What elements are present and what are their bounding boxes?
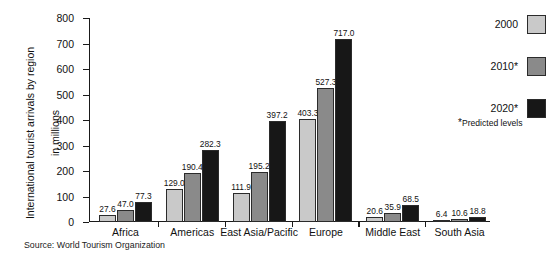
x-tick-separator (358, 222, 359, 227)
bar-group-east-asia-pacific: 111.9195.2397.2East Asia/Pacific (233, 18, 286, 222)
bar-south-asia-2020: 18.8 (469, 217, 486, 222)
legend-item-2020[interactable]: 2020* (446, 98, 546, 118)
bar-east-asia-pacific-2000: 111.9 (233, 193, 250, 222)
bar-group-americas: 129.0190.4282.3Americas (166, 18, 219, 222)
bar-group-africa: 27.647.077.3Africa (99, 18, 152, 222)
y-axis-line (89, 18, 90, 222)
y-tick-label-800: 800 (56, 12, 74, 24)
legend-label-2020: 2020* (491, 102, 518, 114)
bar-europe-2010: 527.3 (317, 88, 334, 222)
x-tick-separator (158, 222, 159, 227)
bar-value-label: 527.3 (315, 77, 336, 87)
legend-footnote: *Predicted levels (458, 118, 523, 128)
legend-label-2010: 2010* (491, 60, 518, 72)
legend-item-2010[interactable]: 2010* (446, 56, 546, 76)
y-tick-label-0: 0 (68, 216, 74, 228)
bar-value-label: 195.2 (249, 161, 270, 171)
bar-value-label: 47.0 (117, 199, 133, 209)
bar-value-label: 397.2 (267, 110, 288, 120)
bar-group-europe: 403.3527.3717.0Europe (299, 18, 352, 222)
legend-label-2000: 2000 (495, 18, 518, 30)
x-axis-label-middle-east: Middle East (365, 226, 420, 238)
y-axis-title-line1: International tourist arrivals by region (24, 47, 36, 219)
source-note: Source: World Tourism Organization (24, 240, 165, 250)
legend-swatch-2010 (527, 57, 546, 76)
bar-value-label: 10.6 (451, 208, 467, 218)
bar-value-label: 68.5 (403, 194, 419, 204)
y-tick-300: 300 (83, 146, 89, 147)
bar-europe-2020: 717.0 (335, 39, 352, 222)
bar-value-label: 35.9 (385, 202, 401, 212)
bar-value-label: 27.6 (99, 204, 115, 214)
y-tick-label-700: 700 (56, 38, 74, 50)
bar-middle-east-2010: 35.9 (384, 213, 401, 222)
bar-value-label: 129.0 (164, 178, 185, 188)
bar-africa-2010: 47.0 (117, 210, 134, 222)
y-tick-0: 0 (83, 222, 89, 223)
x-axis-label-africa: Africa (112, 226, 139, 238)
bar-americas-2010: 190.4 (184, 173, 201, 222)
bar-value-label: 717.0 (333, 28, 354, 38)
bar-africa-2020: 77.3 (135, 202, 152, 222)
y-tick-100: 100 (83, 197, 89, 198)
bar-value-label: 111.9 (231, 182, 251, 192)
footnote-text: Predicted levels (462, 118, 523, 128)
plot-area: 0100200300400500600700800 27.647.077.3Af… (89, 18, 490, 222)
bar-value-label: 403.3 (297, 108, 318, 118)
y-tick-400: 400 (83, 120, 89, 121)
bar-value-label: 190.4 (182, 162, 203, 172)
y-tick-700: 700 (83, 44, 89, 45)
y-tick-label-300: 300 (56, 140, 74, 152)
bar-group-middle-east: 20.635.968.5Middle East (366, 18, 419, 222)
x-tick-separator (425, 222, 426, 227)
y-tick-label-200: 200 (56, 165, 74, 177)
y-axis-title: International tourist arrivals by region… (11, 23, 61, 243)
y-tick-label-100: 100 (56, 191, 74, 203)
bar-value-label: 6.4 (436, 209, 448, 219)
bar-east-asia-pacific-2010: 195.2 (251, 172, 268, 222)
bar-value-label: 20.6 (367, 206, 383, 216)
y-tick-200: 200 (83, 171, 89, 172)
legend-swatch-2000 (527, 15, 546, 34)
y-tick-label-500: 500 (56, 89, 74, 101)
bar-south-asia-2010: 10.6 (451, 219, 468, 222)
y-tick-600: 600 (83, 69, 89, 70)
x-axis-label-east-asia-pacific: East Asia/Pacific (220, 226, 298, 238)
chart-figure: International tourist arrivals by region… (0, 0, 556, 260)
bar-middle-east-2020: 68.5 (402, 205, 419, 222)
legend-item-2000[interactable]: 2000 (446, 14, 546, 34)
bar-americas-2000: 129.0 (166, 189, 183, 222)
legend-swatch-2020 (527, 99, 546, 118)
bar-south-asia-2000: 6.4 (433, 220, 450, 222)
x-axis-label-south-asia: South Asia (434, 226, 484, 238)
bar-value-label: 77.3 (135, 191, 151, 201)
y-tick-500: 500 (83, 95, 89, 96)
y-tick-label-600: 600 (56, 63, 74, 75)
bar-value-label: 18.8 (469, 206, 485, 216)
bar-africa-2000: 27.6 (99, 215, 116, 222)
bar-americas-2020: 282.3 (202, 150, 219, 222)
x-axis-label-europe: Europe (309, 226, 343, 238)
x-axis-label-americas: Americas (170, 226, 214, 238)
y-tick-800: 800 (83, 18, 89, 19)
y-tick-label-400: 400 (56, 114, 74, 126)
bar-europe-2000: 403.3 (299, 119, 316, 222)
bar-east-asia-pacific-2020: 397.2 (269, 121, 286, 222)
bar-value-label: 282.3 (200, 139, 221, 149)
bar-middle-east-2000: 20.6 (366, 217, 383, 222)
